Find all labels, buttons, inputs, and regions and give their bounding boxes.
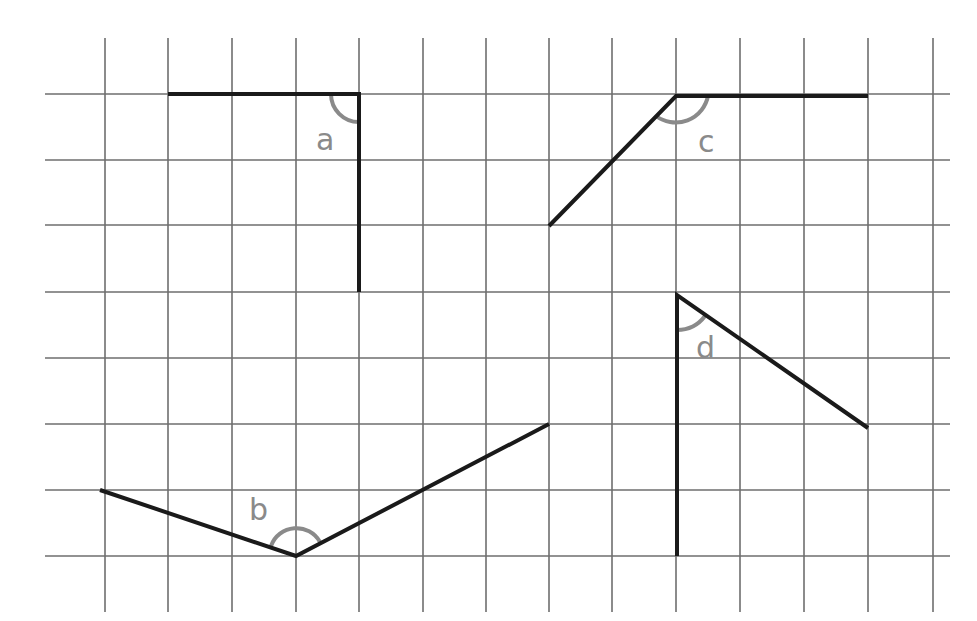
- angle-arc: [677, 316, 705, 330]
- angle-label: b: [249, 492, 268, 527]
- angle-c: c: [549, 96, 868, 226]
- grid: [45, 38, 950, 612]
- angle-d: d: [677, 295, 868, 556]
- angle-label: d: [696, 330, 715, 365]
- angle-a: a: [168, 94, 359, 292]
- angle-label: a: [316, 122, 334, 157]
- angle-label: c: [698, 124, 715, 159]
- angle-diagram: abcd: [0, 0, 977, 621]
- angle-shapes: abcd: [100, 94, 868, 556]
- angle-arc: [331, 94, 359, 122]
- angle-arms: [549, 96, 868, 226]
